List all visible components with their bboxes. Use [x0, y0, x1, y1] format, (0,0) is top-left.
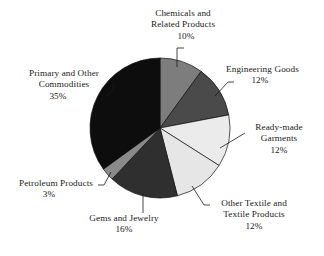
slice-value-petroleum-products: 3%: [4, 189, 108, 200]
slice-label-chemicals: Chemicals and Related Products 10%: [135, 8, 231, 42]
slice-label-gems-and-jewelry-line1: Gems and Jewelry: [72, 213, 176, 224]
slice-label-primary-and-other-commodities: Primary and Other Commodities 35%: [12, 68, 116, 102]
slice-label-primary-and-other-commodities-line2: Commodities: [12, 79, 116, 90]
pie-chart: Chemicals and Related Products 10% Engin…: [0, 0, 324, 256]
slice-label-primary-and-other-commodities-line1: Primary and Other: [12, 68, 116, 79]
slice-label-engineering-goods-line1: Engineering Goods: [226, 64, 322, 75]
slice-label-petroleum-products: Petroleum Products 3%: [4, 178, 108, 201]
slice-value-chemicals: 10%: [135, 31, 231, 42]
slice-value-engineering-goods: 12%: [226, 75, 322, 86]
slice-label-engineering-goods: Engineering Goods 12%: [226, 64, 322, 87]
slice-label-chemicals-line2: Related Products: [135, 19, 231, 30]
slice-value-primary-and-other-commodities: 35%: [12, 91, 116, 102]
slice-value-other-textile: 12%: [202, 221, 306, 232]
slice-value-gems-and-jewelry: 16%: [72, 224, 176, 235]
slice-value-ready-made-garments: 12%: [240, 145, 318, 156]
slice-label-ready-made-garments-line2: Garments: [240, 133, 318, 144]
slice-label-chemicals-line1: Chemicals and: [135, 8, 231, 19]
slice-label-petroleum-products-line1: Petroleum Products: [4, 178, 108, 189]
slice-label-other-textile-line1: Other Textile and: [202, 198, 306, 209]
slice-label-ready-made-garments: Ready-made Garments 12%: [240, 122, 318, 156]
slice-label-other-textile: Other Textile and Textile Products 12%: [202, 198, 306, 232]
slice-label-ready-made-garments-line1: Ready-made: [240, 122, 318, 133]
slice-label-gems-and-jewelry: Gems and Jewelry 16%: [72, 213, 176, 236]
slice-label-other-textile-line2: Textile Products: [202, 209, 306, 220]
